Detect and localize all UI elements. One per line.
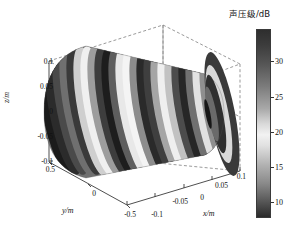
figure-canvas: 0.1 0.05 0 -0.05 -0.1 z/m 0.5 0 -0.5 y/m… xyxy=(0,0,301,231)
colorbar-gradient xyxy=(257,30,270,217)
colorbar-tickmark-30 xyxy=(271,61,274,62)
colorbar-title: 声压级/dB xyxy=(229,7,270,19)
y-tick-0: 0.5 xyxy=(33,165,55,174)
x-tick-1: -0.05 xyxy=(160,197,188,206)
z-axis-title: z/m xyxy=(2,92,11,103)
colorbar-tickmark-25 xyxy=(271,97,274,98)
y-axis-title: y/m xyxy=(62,206,74,215)
x-tick-0: -0.1 xyxy=(137,210,163,219)
z-tick-2: 0 xyxy=(23,107,53,116)
y-tick-1: 0 xyxy=(74,189,96,198)
colorbar-tickmark-15 xyxy=(271,167,274,168)
z-tick-0: 0.1 xyxy=(23,57,53,66)
colorbar-label-20: 20 xyxy=(275,128,283,137)
colorbar-label-15: 15 xyxy=(275,163,283,172)
z-tick-3: -0.05 xyxy=(23,132,53,141)
colorbar-label-30: 30 xyxy=(275,57,283,66)
colorbar-tickmark-10 xyxy=(271,202,274,203)
colorbar-tickmark-20 xyxy=(271,132,274,133)
x-tick-3: 0.05 xyxy=(204,181,228,190)
z-tick-1: 0.05 xyxy=(23,82,53,91)
y-tick-2: -0.5 xyxy=(110,210,136,219)
x-tick-2: 0 xyxy=(192,193,204,202)
x-axis-title: x/m xyxy=(203,209,215,218)
colorbar-label-10: 10 xyxy=(275,198,283,207)
x-tick-4: 0.1 xyxy=(228,172,246,181)
colorbar[interactable] xyxy=(256,29,271,218)
colorbar-label-25: 25 xyxy=(275,93,283,102)
